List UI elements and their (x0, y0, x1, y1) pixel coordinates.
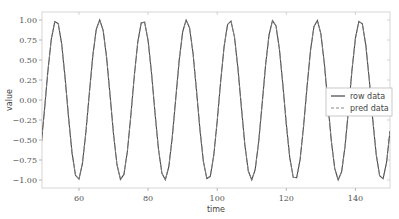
y-tick-label: 0.75 (19, 36, 37, 45)
y-tick-label: −1.00 (12, 176, 37, 185)
x-tick-label: 80 (143, 194, 153, 203)
y-tick-label: −0.50 (12, 136, 37, 145)
y-tick-label: 0.00 (19, 96, 37, 105)
legend-pred-data-label: pred data (350, 104, 389, 113)
x-tick-label: 140 (348, 194, 363, 203)
x-axis-label: time (207, 205, 225, 214)
y-tick-label: −0.25 (12, 116, 37, 125)
y-tick-label: 0.50 (19, 56, 37, 65)
line-chart: 1.000.750.500.250.00−0.25−0.50−0.75−1.00… (0, 0, 399, 219)
y-tick-label: −0.75 (12, 156, 37, 165)
x-tick-label: 60 (74, 194, 84, 203)
x-tick-label: 120 (279, 194, 294, 203)
y-axis-label: value (5, 89, 14, 111)
y-tick-label: 1.00 (19, 16, 37, 25)
x-tick-label: 100 (210, 194, 225, 203)
y-tick-label: 0.25 (19, 76, 37, 85)
legend: row data pred data (326, 88, 392, 116)
legend-row-data-label: row data (350, 92, 385, 101)
